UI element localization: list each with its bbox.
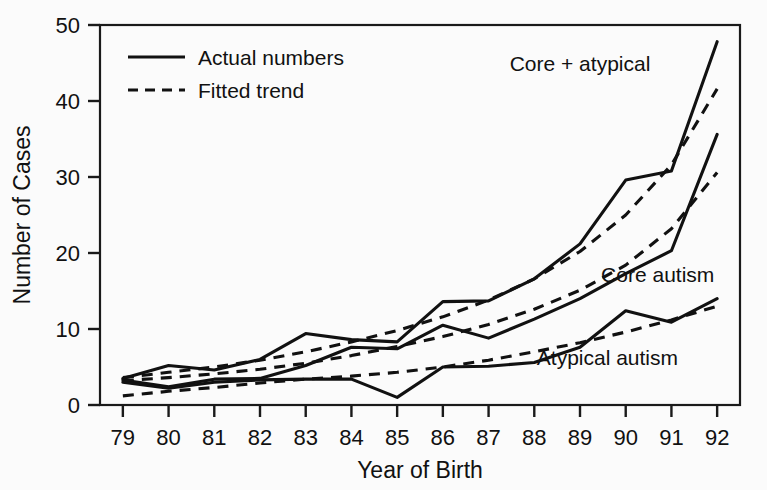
y-tick-label-0: 0	[68, 393, 80, 418]
annotation-core-autism: Core autism	[601, 263, 714, 286]
x-tick-label-85: 85	[385, 425, 409, 450]
legend-label-fitted-trend: Fitted trend	[198, 79, 304, 102]
x-tick-label-82: 82	[248, 425, 272, 450]
chart-figure: 01020304050 7980818283848586878889909192…	[0, 0, 767, 490]
x-tick-label-90: 90	[613, 425, 637, 450]
x-tick-label-87: 87	[476, 425, 500, 450]
x-tick-label-83: 83	[293, 425, 317, 450]
annotation-atypical-autism: Atypical autism	[537, 346, 678, 369]
x-tick-label-89: 89	[568, 425, 592, 450]
y-axis-title: Number of Cases	[9, 126, 35, 305]
x-tick-label-92: 92	[705, 425, 729, 450]
y-tick-label-40: 40	[56, 89, 80, 114]
annotation-core-atypical: Core + atypical	[510, 52, 651, 75]
y-tick-label-20: 20	[56, 241, 80, 266]
x-tick-label-84: 84	[339, 425, 363, 450]
x-tick-label-88: 88	[522, 425, 546, 450]
y-tick-label-50: 50	[56, 13, 80, 38]
x-tick-label-91: 91	[659, 425, 683, 450]
y-tick-label-10: 10	[56, 317, 80, 342]
line-chart: 01020304050 7980818283848586878889909192…	[0, 0, 767, 490]
x-tick-label-80: 80	[156, 425, 180, 450]
x-tick-label-81: 81	[202, 425, 226, 450]
x-tick-label-79: 79	[111, 425, 135, 450]
legend-label-actual-numbers: Actual numbers	[198, 46, 344, 69]
x-axis-title: Year of Birth	[357, 457, 483, 483]
y-tick-label-30: 30	[56, 165, 80, 190]
x-tick-label-86: 86	[431, 425, 455, 450]
